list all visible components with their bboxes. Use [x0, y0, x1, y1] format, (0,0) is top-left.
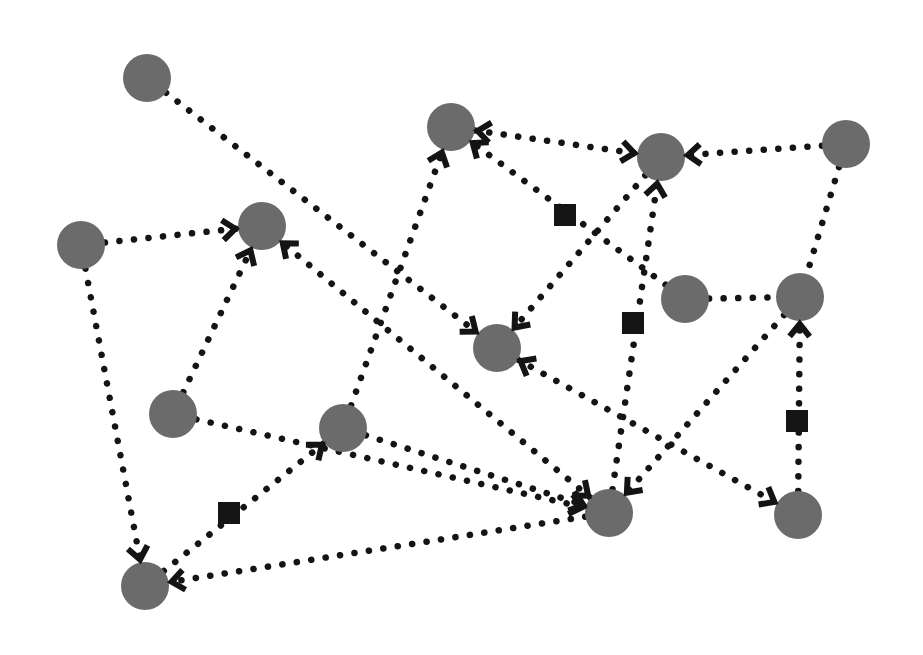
edge-n12-n14 — [169, 517, 586, 583]
edge-n10-n12 — [196, 419, 585, 507]
edge-n4-n5 — [475, 130, 637, 153]
diagram-canvas — [0, 0, 923, 655]
node-n6 — [822, 120, 870, 168]
network-diagram — [0, 0, 923, 655]
square-marker-icon — [622, 312, 644, 334]
arrowhead-icon — [688, 144, 701, 164]
edge-n8-n12 — [625, 315, 784, 495]
node-n1 — [123, 54, 171, 102]
edge-n10-n3 — [183, 248, 251, 393]
square-marker-icon — [786, 410, 808, 432]
edge-n2-n14 — [85, 269, 140, 563]
edge-n11-n12 — [366, 435, 586, 505]
node-n12 — [585, 489, 633, 537]
node-n7 — [661, 275, 709, 323]
edge-n6-n8 — [807, 167, 839, 274]
node-n3 — [238, 202, 286, 250]
node-n10 — [149, 390, 197, 438]
arrowhead-icon — [645, 184, 665, 198]
markers-layer — [128, 123, 810, 590]
edge-n6-n5 — [685, 146, 822, 156]
arrowhead-icon — [128, 545, 148, 559]
node-n13 — [774, 491, 822, 539]
edge-n7-n8 — [709, 297, 776, 298]
node-n2 — [57, 221, 105, 269]
edge-n9-n13 — [518, 360, 777, 504]
node-n14 — [121, 562, 169, 610]
node-n4 — [427, 103, 475, 151]
edge-n2-n3 — [105, 229, 238, 243]
edge-n11-n4 — [351, 150, 443, 406]
square-marker-icon — [218, 502, 240, 524]
node-n11 — [319, 404, 367, 452]
node-n9 — [473, 324, 521, 372]
node-n8 — [776, 273, 824, 321]
square-marker-icon — [554, 204, 576, 226]
edge-n14-n11 — [164, 443, 324, 571]
edge-n12-n5 — [612, 181, 657, 490]
node-n5 — [637, 133, 685, 181]
edge-n13-n8 — [798, 321, 800, 491]
edges-layer — [85, 93, 839, 583]
edge-n5-n9 — [513, 175, 646, 330]
